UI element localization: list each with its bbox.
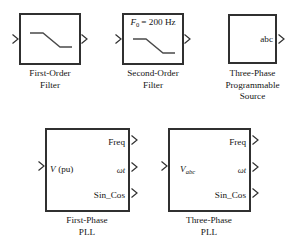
caption-line: Programmable xyxy=(205,80,298,92)
block-diagram-canvas: First-Order Filter F0= 200 Hz Second-Ord… xyxy=(0,0,298,248)
first-phase-pll-output-port-omega-t[interactable] xyxy=(130,161,139,172)
caption-line: PLL xyxy=(42,227,132,239)
caption-three-phase-pll: Three-Phase PLL xyxy=(164,215,254,238)
second-order-filter-input-port[interactable] xyxy=(114,33,123,44)
first-phase-pll-output-port-sin-cos[interactable] xyxy=(130,187,139,198)
three-phase-pll-input-port[interactable] xyxy=(160,160,169,171)
three-phase-pll-output-label-omega-t: ωt xyxy=(168,165,246,176)
caption-line: Source xyxy=(205,91,298,103)
f0-subscript: 0 xyxy=(136,21,139,28)
caption-first-order-filter: First-Order Filter xyxy=(5,68,95,91)
caption-line: PLL xyxy=(164,227,254,239)
first-phase-pll-input-port[interactable] xyxy=(37,160,46,171)
three-phase-pll-output-port-sin-cos[interactable] xyxy=(251,187,260,198)
first-phase-pll-output-label-freq: Freq xyxy=(45,137,125,148)
caption-line: Second-Order xyxy=(108,68,198,80)
three-phase-pll-output-label-sin-cos: Sin_Cos xyxy=(168,190,246,201)
caption-line: Filter xyxy=(5,80,95,92)
f0-value: = 200 Hz xyxy=(141,17,175,27)
lowpass-filter-curve-icon xyxy=(132,35,176,57)
three-phase-pll-output-label-freq: Freq xyxy=(168,137,246,148)
lowpass-filter-curve-icon xyxy=(29,29,73,51)
three-phase-pll-output-port-omega-t[interactable] xyxy=(251,161,260,172)
caption-first-phase-pll: First-Phase PLL xyxy=(42,215,132,238)
caption-second-order-filter: Second-Order Filter xyxy=(108,68,198,91)
first-phase-pll-output-port-freq[interactable] xyxy=(130,134,139,145)
caption-three-phase-source: Three-Phase Programmable Source xyxy=(205,68,298,103)
caption-line: First-Order xyxy=(5,68,95,80)
first-order-filter-output-port[interactable] xyxy=(80,33,89,44)
caption-line: First-Phase xyxy=(42,215,132,227)
three-phase-source-abc-label: abc xyxy=(228,34,273,45)
first-phase-pll-output-label-sin-cos: Sin_Cos xyxy=(45,190,125,201)
second-order-filter-f0-label: F0= 200 Hz xyxy=(122,17,184,30)
first-phase-pll-output-label-omega-t: ωt xyxy=(45,165,125,176)
three-phase-source-output-port[interactable] xyxy=(277,33,286,44)
caption-line: Filter xyxy=(108,80,198,92)
first-order-filter-input-port[interactable] xyxy=(11,33,20,44)
caption-line: Three-Phase xyxy=(205,68,298,80)
second-order-filter-output-port[interactable] xyxy=(183,33,192,44)
three-phase-pll-output-port-freq[interactable] xyxy=(251,134,260,145)
caption-line: Three-Phase xyxy=(164,215,254,227)
